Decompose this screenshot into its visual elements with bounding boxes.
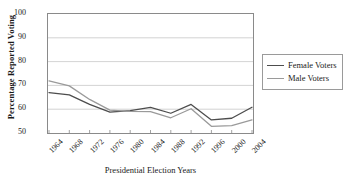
x-axis-tick-label: 1988 <box>167 138 187 158</box>
series-line <box>49 93 252 120</box>
x-axis-tick-labels: 1964196819721976198019841988199219962000… <box>47 134 254 164</box>
x-axis-tick-label: 2004 <box>248 138 268 158</box>
y-axis-tick-labels: 5060708090100 <box>6 0 26 183</box>
legend-swatch-icon <box>267 78 284 79</box>
x-axis-tick-label: 2000 <box>228 138 248 158</box>
y-axis-tick-label: 100 <box>6 9 26 17</box>
plot-area <box>47 13 254 134</box>
x-axis-tick-label: 1972 <box>85 138 105 158</box>
y-axis-tick-label: 90 <box>6 33 26 41</box>
x-axis-title: Presidential Election Years <box>47 165 254 175</box>
x-axis-tick-label: 1964 <box>45 138 65 158</box>
y-axis-tick-label: 60 <box>6 104 26 112</box>
plot-svg <box>48 14 253 133</box>
x-axis-tick-label: 1992 <box>187 138 207 158</box>
x-axis-tick-label: 1976 <box>106 138 126 158</box>
y-axis-tick-label: 50 <box>6 128 26 136</box>
y-axis-tick-label: 70 <box>6 80 26 88</box>
x-axis-tick-label: 1996 <box>207 138 227 158</box>
legend-item: Male Voters <box>267 72 337 85</box>
y-axis-tick-label: 80 <box>6 57 26 65</box>
x-axis-tick-label: 1984 <box>146 138 166 158</box>
x-axis-tick-label: 1980 <box>126 138 146 158</box>
legend-swatch-icon <box>267 65 284 66</box>
line-chart: Percentage Reported Voting 5060708090100… <box>0 0 354 183</box>
legend-label: Male Voters <box>288 74 329 83</box>
series-lines <box>49 81 252 126</box>
legend-item: Female Voters <box>267 59 337 72</box>
x-axis-tick-label: 1968 <box>65 138 85 158</box>
legend-label: Female Voters <box>288 61 337 70</box>
chart-legend: Female VotersMale Voters <box>262 54 343 90</box>
